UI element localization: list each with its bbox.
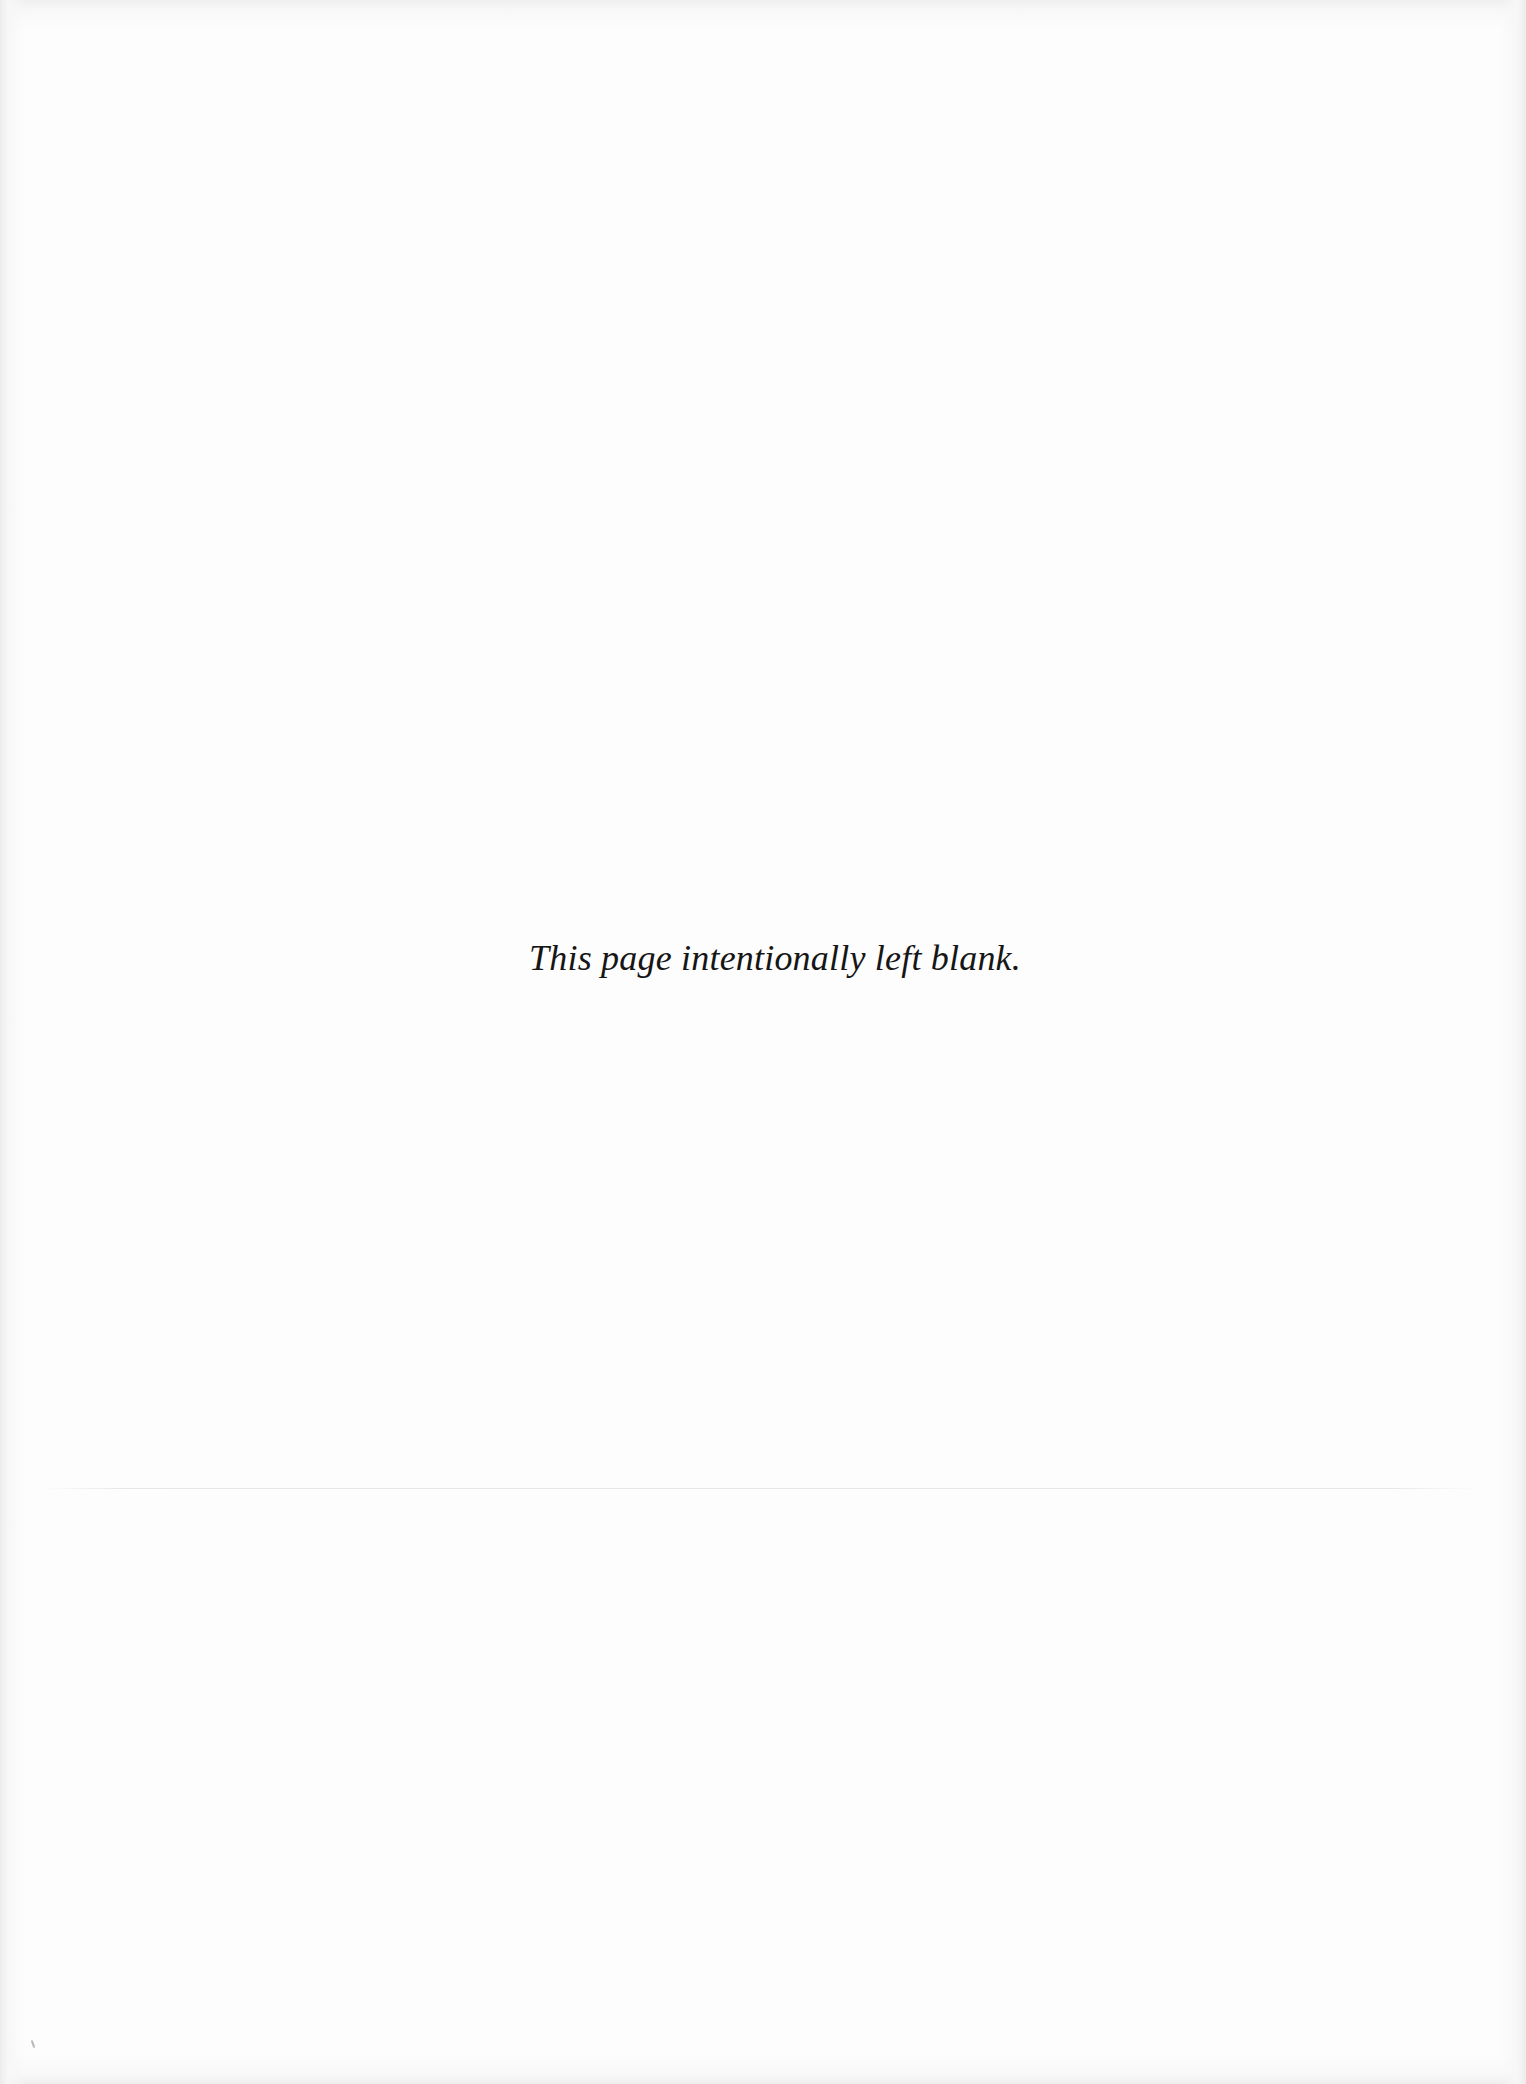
blank-page-notice: This page intentionally left blank. — [0, 934, 1526, 982]
scan-fold-line — [40, 1488, 1480, 1489]
blank-page: This page intentionally left blank. — [0, 0, 1526, 2084]
scan-speck — [31, 2040, 36, 2048]
